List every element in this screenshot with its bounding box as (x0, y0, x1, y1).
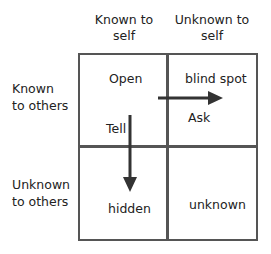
ask-arrow-icon (158, 91, 223, 105)
tell-arrow-icon (123, 115, 137, 192)
arrows-layer (0, 0, 271, 254)
